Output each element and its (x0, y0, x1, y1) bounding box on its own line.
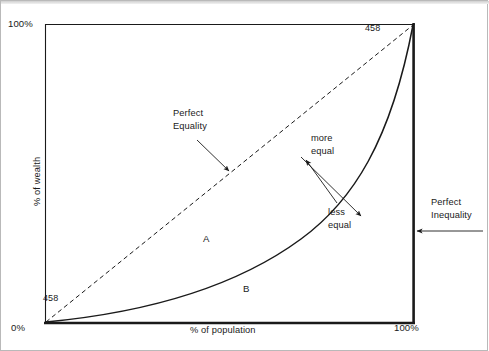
perfect-equality-leader (197, 140, 229, 171)
x-axis-max-tick: 100% (394, 322, 419, 334)
origin-tick: 0% (11, 322, 25, 334)
perfect-equality-label-line2: Equality (173, 121, 207, 133)
region-label-a: A (203, 233, 210, 245)
perfect-inequality-label-line1: Perfect (431, 197, 461, 209)
y-axis-title: % of wealth (32, 157, 44, 206)
less-equal-label-line1: less (328, 207, 345, 219)
perfect-equality-label-line1: Perfect (173, 108, 203, 120)
angle-label-bottom: 458 (43, 293, 58, 305)
diagram-canvas (1, 1, 489, 351)
perfect-inequality-label-line2: Inequality (431, 210, 472, 222)
angle-label-top: 458 (365, 23, 380, 35)
more-equal-label-line2: equal (311, 146, 334, 158)
perfect-equality-line (46, 25, 413, 322)
more-equal-label-line1: more (311, 133, 333, 145)
less-equal-label-line2: equal (328, 220, 351, 232)
x-axis-title: % of population (190, 325, 256, 337)
region-label-b: B (243, 283, 250, 295)
y-axis-max-tick: 100% (8, 18, 33, 30)
